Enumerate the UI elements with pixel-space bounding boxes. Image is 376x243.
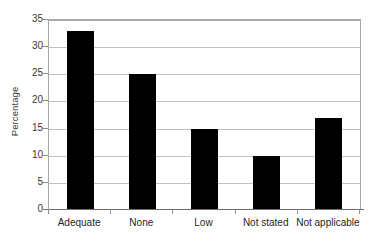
x-axis-tick-mark: [48, 209, 49, 214]
x-axis-tick-mark: [359, 209, 360, 214]
y-axis-tick-label: 20: [0, 95, 43, 105]
y-axis-tick-labels: 05101520253035: [0, 0, 43, 243]
x-axis-tick-mark: [297, 209, 298, 214]
y-axis-tick-label: 15: [0, 123, 43, 133]
y-axis-tick-label: 10: [0, 150, 43, 160]
bar: [67, 31, 94, 210]
y-axis-tick-label: 25: [0, 68, 43, 78]
y-axis-tick-label: 30: [0, 41, 43, 51]
x-axis-line: [44, 209, 364, 210]
y-axis-tick-label: 0: [0, 204, 43, 214]
y-axis-tick-label: 5: [0, 177, 43, 187]
plot-area: [48, 19, 361, 210]
bar-chart: Percentage 05101520253035 AdequateNoneLo…: [0, 0, 376, 243]
x-axis-tick-label: Not applicable: [283, 217, 373, 229]
bar: [129, 74, 156, 210]
bar: [191, 129, 218, 210]
bar: [253, 156, 280, 210]
x-axis-tick-mark: [110, 209, 111, 214]
y-axis-tick-label: 35: [0, 14, 43, 24]
bar: [315, 118, 342, 210]
bars-layer: [49, 20, 360, 210]
x-axis-tick-mark: [172, 209, 173, 214]
x-axis-tick-mark: [235, 209, 236, 214]
